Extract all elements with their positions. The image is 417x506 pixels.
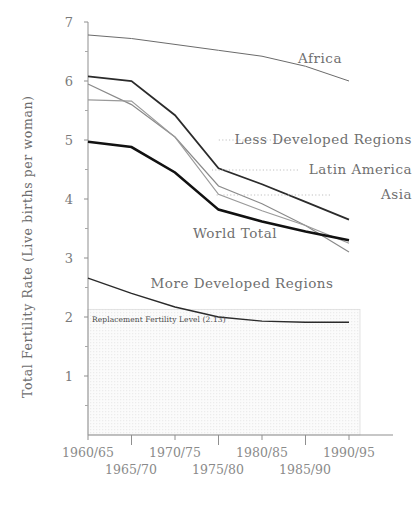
x-tick-label-1975-80: 1975/80 [192, 462, 244, 477]
series-label-africa: Africa [297, 50, 342, 66]
y-tick-label-6: 6 [65, 74, 73, 89]
x-tick-label-1960-65: 1960/65 [62, 445, 114, 460]
y-axis-ticks [84, 22, 88, 406]
series-label-world-total: World Total [193, 225, 277, 241]
fertility-rate-chart: 7 6 5 4 3 2 1 Total Fertility Rate (Live… [0, 0, 417, 506]
x-tick-label-1985-90: 1985/90 [279, 462, 331, 477]
y-tick-label-5: 5 [65, 133, 73, 148]
y-axis-title: Total Fertility Rate (Live births per wo… [20, 95, 35, 398]
y-tick-label-7: 7 [65, 15, 73, 30]
series-line-less-developed-regions [88, 76, 349, 219]
x-tick-label-1980-85: 1980/85 [236, 445, 288, 460]
series-label-latin-america: Latin America [309, 161, 412, 177]
x-tick-label-1970-75: 1970/75 [149, 445, 201, 460]
replacement-level-annotation: Replacement Fertility Level (2.13) [92, 315, 226, 324]
series-label-asia: Asia [380, 186, 412, 202]
x-tick-label-1965-70: 1965/70 [105, 462, 157, 477]
y-tick-label-3: 3 [65, 251, 73, 266]
y-tick-label-4: 4 [65, 192, 73, 207]
x-tick-label-1990-95: 1990/95 [323, 445, 375, 460]
series-label-more-developed: More Developed Regions [151, 275, 334, 291]
replacement-level-shaded-region [88, 309, 360, 435]
y-tick-label-1: 1 [65, 369, 73, 384]
series-label-less-developed: Less Developed Regions [235, 131, 412, 147]
y-tick-label-2: 2 [65, 310, 73, 325]
chart-svg: 7 6 5 4 3 2 1 Total Fertility Rate (Live… [0, 0, 417, 506]
x-axis-ticks [88, 435, 349, 445]
